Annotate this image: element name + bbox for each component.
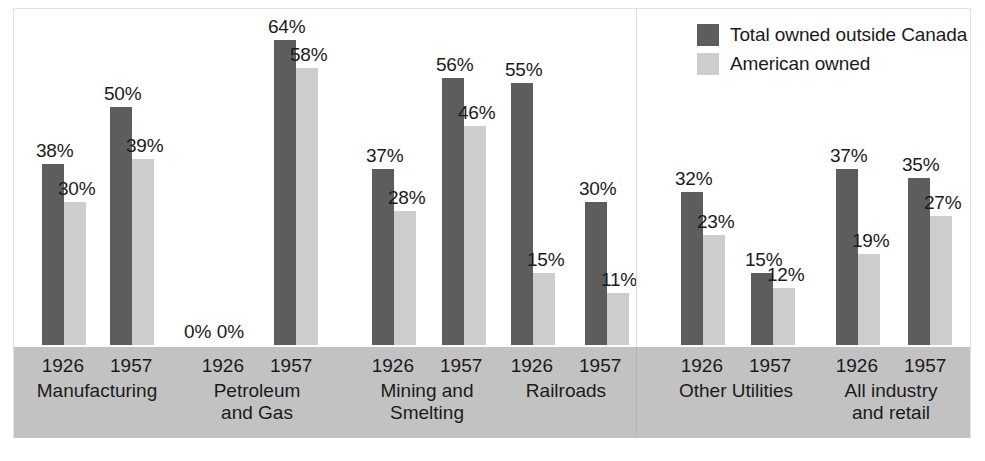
bar-american <box>132 159 154 345</box>
bar-value-label: 23% <box>697 211 734 233</box>
bar-value-label: 12% <box>767 264 804 286</box>
x-axis-group-label: Other Utilities <box>671 380 801 402</box>
x-axis-year-label: 1957 <box>579 355 621 377</box>
bar-american <box>703 235 725 345</box>
bar-american <box>296 68 318 345</box>
x-axis-group-label: All industry and retail <box>826 380 956 424</box>
bar-value-label: 64% <box>268 16 305 38</box>
bar-american <box>533 273 555 345</box>
x-axis-group-other-utilities: 19261957Other Utilities <box>671 347 801 402</box>
x-axis-group-label: Petroleum and Gas <box>192 380 322 424</box>
bar-value-label: 30% <box>579 178 616 200</box>
x-axis-year-label: 1957 <box>440 355 482 377</box>
x-axis-label-band: 19261957Manufacturing19261957Petroleum a… <box>14 347 970 438</box>
x-axis-year-label: 1926 <box>42 355 84 377</box>
x-axis-group-petroleum-and-gas: 19261957Petroleum and Gas <box>192 347 322 424</box>
bar-total <box>511 83 533 345</box>
bar-total <box>836 169 858 345</box>
x-axis-year-label: 1957 <box>110 355 152 377</box>
x-axis-group-label: Manufacturing <box>32 380 162 402</box>
legend-label-american-owned: American owned <box>730 53 870 75</box>
bar-value-label: 50% <box>104 83 141 105</box>
bar-value-label: 11% <box>601 269 637 291</box>
bar-value-label: 58% <box>290 44 327 66</box>
bar-american <box>930 216 952 345</box>
bar-value-label: 30% <box>58 178 95 200</box>
legend-swatch-icon-american-owned <box>697 53 719 75</box>
bar-american <box>64 202 86 345</box>
bar-value-label: 38% <box>36 140 73 162</box>
bar-value-label: 28% <box>388 187 425 209</box>
legend-label-total-owned: Total owned outside Canada <box>730 24 967 46</box>
section-divider <box>636 9 637 347</box>
bar-value-label: 32% <box>675 168 712 190</box>
bar-american <box>773 288 795 345</box>
bar-american <box>394 211 416 345</box>
x-axis-year-label: 1957 <box>749 355 791 377</box>
bar-value-zero-pair: 0% 0% <box>184 321 244 343</box>
x-axis-year-label: 1926 <box>511 355 553 377</box>
x-axis-years: 19261957 <box>362 355 492 377</box>
section-divider-band <box>636 347 637 438</box>
x-axis-group-label: Mining and Smelting <box>362 380 492 424</box>
bar-value-label: 46% <box>458 102 495 124</box>
x-axis-year-label: 1957 <box>904 355 946 377</box>
x-axis-years: 19261957 <box>501 355 631 377</box>
legend-swatch-icon-total-owned <box>697 24 719 46</box>
x-axis-years: 19261957 <box>192 355 322 377</box>
x-axis-group-mining-and-smelting: 19261957Mining and Smelting <box>362 347 492 424</box>
x-axis-group-all-industry-and-retail: 19261957All industry and retail <box>826 347 956 424</box>
x-axis-years: 19261957 <box>826 355 956 377</box>
bar-american <box>607 293 629 345</box>
x-axis-year-label: 1926 <box>372 355 414 377</box>
chart-legend: Total owned outside Canada American owne… <box>697 24 967 82</box>
bar-value-label: 15% <box>527 249 564 271</box>
legend-item-american-owned: American owned <box>697 53 967 75</box>
bar-chart-figure: 38%30%50%39%0% 0%64%58%37%28%56%46%55%15… <box>0 0 985 461</box>
bar-american <box>464 126 486 345</box>
bar-value-label: 19% <box>852 230 889 252</box>
x-axis-group-label: Railroads <box>501 380 631 402</box>
bar-value-label: 56% <box>436 54 473 76</box>
bar-value-label: 37% <box>830 145 867 167</box>
bar-value-label: 55% <box>505 59 542 81</box>
bar-american <box>858 254 880 345</box>
bar-value-label: 39% <box>126 135 163 157</box>
bar-value-label: 35% <box>902 154 939 176</box>
bar-value-label: 37% <box>366 145 403 167</box>
x-axis-year-label: 1926 <box>681 355 723 377</box>
bar-total <box>274 40 296 345</box>
x-axis-group-manufacturing: 19261957Manufacturing <box>32 347 162 402</box>
x-axis-year-label: 1926 <box>836 355 878 377</box>
legend-item-total-owned-outside-canada: Total owned outside Canada <box>697 24 967 46</box>
x-axis-group-railroads: 19261957Railroads <box>501 347 631 402</box>
x-axis-years: 19261957 <box>671 355 801 377</box>
x-axis-years: 19261957 <box>32 355 162 377</box>
x-axis-year-label: 1957 <box>270 355 312 377</box>
bar-value-label: 27% <box>924 192 961 214</box>
x-axis-year-label: 1926 <box>202 355 244 377</box>
